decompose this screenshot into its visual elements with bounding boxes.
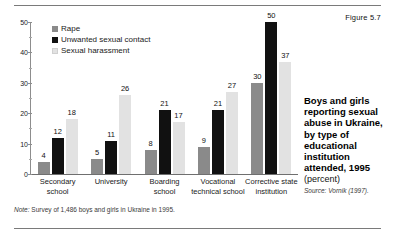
caption-unit: (percent) xyxy=(304,174,390,185)
y-tick-minor xyxy=(29,37,32,38)
bar-value-label: 37 xyxy=(281,51,289,60)
bar-value-label: 9 xyxy=(202,136,206,145)
bar[interactable]: 18 xyxy=(66,119,78,174)
y-tick-major xyxy=(28,144,32,145)
bar-group: 305037 xyxy=(245,22,298,174)
y-tick-minor xyxy=(29,128,32,129)
bar-value-label: 17 xyxy=(174,111,182,120)
y-tick-minor xyxy=(29,98,32,99)
plot-area: 01020304050 RapeUnwanted sexual contactS… xyxy=(8,22,298,197)
y-tick-major xyxy=(28,83,32,84)
bar[interactable]: 50 xyxy=(265,22,277,174)
y-tick-label-10: 10 xyxy=(8,140,28,147)
y-tick-label-20: 20 xyxy=(8,110,28,117)
bar-value-label: 11 xyxy=(107,130,115,139)
bar[interactable]: 26 xyxy=(119,95,131,174)
y-tick-minor xyxy=(29,159,32,160)
bar-value-label: 18 xyxy=(68,108,76,117)
bar-value-label: 30 xyxy=(253,72,261,81)
y-tick-major xyxy=(28,22,32,23)
bar[interactable]: 27 xyxy=(226,92,238,174)
bar-value-label: 8 xyxy=(148,139,152,148)
y-tick-label-40: 40 xyxy=(8,49,28,56)
bar-value-label: 4 xyxy=(42,151,46,160)
y-tick-label-30: 30 xyxy=(8,79,28,86)
bar-group: 82117 xyxy=(138,22,191,174)
x-category-label: Vocational technical school xyxy=(191,177,244,196)
bar-value-label: 27 xyxy=(228,81,236,90)
bar-value-label: 21 xyxy=(214,99,222,108)
bar[interactable]: 17 xyxy=(173,122,185,174)
caption-panel: Boys and girls reporting sexual abuse in… xyxy=(304,95,390,194)
bar[interactable]: 11 xyxy=(105,141,117,174)
y-tick-major xyxy=(28,174,32,175)
x-axis-line xyxy=(30,174,298,175)
bar-value-label: 5 xyxy=(95,148,99,157)
bar[interactable]: 12 xyxy=(52,138,64,174)
bar-group: 92127 xyxy=(191,22,244,174)
figure-note: Note: Survey of 1,486 boys and girls in … xyxy=(14,206,175,213)
bar[interactable]: 21 xyxy=(159,110,171,174)
y-tick-label-0: 0 xyxy=(8,171,28,178)
bar[interactable]: 21 xyxy=(212,110,224,174)
top-rule xyxy=(14,5,381,6)
x-category-label: Corrective state institution xyxy=(245,177,298,196)
bar-group: 51126 xyxy=(84,22,137,174)
caption-title: Boys and girls reporting sexual abuse in… xyxy=(304,95,390,173)
bar-value-label: 21 xyxy=(160,99,168,108)
y-tick-minor xyxy=(29,68,32,69)
note-label: Note: xyxy=(14,206,30,213)
figure-number: Figure 5.7 xyxy=(345,13,381,22)
y-axis-tick-labels: 01020304050 xyxy=(8,22,28,174)
note-text: Survey of 1,486 boys and girls in Ukrain… xyxy=(30,206,175,213)
bar[interactable]: 5 xyxy=(91,159,103,174)
bar[interactable]: 4 xyxy=(38,162,50,174)
y-tick-major xyxy=(28,52,32,53)
bar[interactable]: 37 xyxy=(279,62,291,174)
x-category-label: Boarding school xyxy=(138,177,191,196)
x-category-label: Secondary school xyxy=(31,177,84,196)
caption-source: Source: Vornik (1997). xyxy=(304,187,390,194)
x-axis-category-labels: Secondary schoolUniversityBoarding schoo… xyxy=(31,177,298,196)
bar-group: 41218 xyxy=(31,22,84,174)
figure-container: Figure 5.7 01020304050 RapeUnwanted sexu… xyxy=(0,0,395,234)
bar[interactable]: 9 xyxy=(198,147,210,174)
bar-value-label: 12 xyxy=(54,127,62,136)
bottom-rule xyxy=(14,228,381,229)
y-tick-label-50: 50 xyxy=(8,19,28,26)
bar[interactable]: 30 xyxy=(251,83,263,174)
x-category-label: University xyxy=(84,177,137,196)
bar-value-label: 50 xyxy=(267,11,275,20)
bar-groups: 41218511268211792127305037 xyxy=(31,22,298,174)
y-tick-major xyxy=(28,113,32,114)
bar[interactable]: 8 xyxy=(145,150,157,174)
bar-value-label: 26 xyxy=(121,84,129,93)
